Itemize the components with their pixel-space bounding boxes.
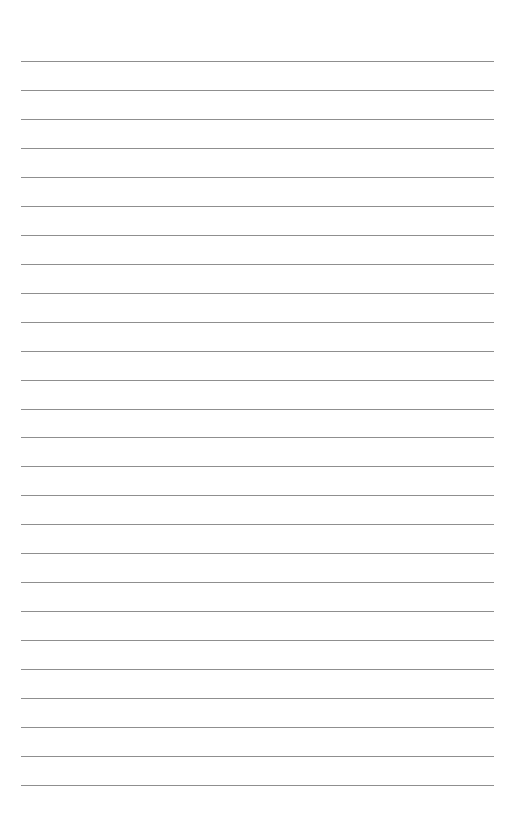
ruled-line <box>21 640 494 641</box>
ruled-line <box>21 322 494 323</box>
ruled-line <box>21 90 494 91</box>
ruled-line <box>21 611 494 612</box>
ruled-line <box>21 380 494 381</box>
ruled-page <box>0 0 517 821</box>
ruled-line <box>21 235 494 236</box>
ruled-line <box>21 669 494 670</box>
ruled-line <box>21 466 494 467</box>
ruled-line <box>21 756 494 757</box>
ruled-line <box>21 409 494 410</box>
ruled-line <box>21 264 494 265</box>
ruled-line <box>21 437 494 438</box>
ruled-line <box>21 698 494 699</box>
ruled-line <box>21 785 494 786</box>
ruled-line <box>21 727 494 728</box>
ruled-line <box>21 177 494 178</box>
ruled-line <box>21 61 494 62</box>
ruled-line <box>21 119 494 120</box>
ruled-line <box>21 524 494 525</box>
ruled-line <box>21 293 494 294</box>
ruled-line <box>21 206 494 207</box>
ruled-line <box>21 351 494 352</box>
ruled-line <box>21 582 494 583</box>
ruled-line <box>21 495 494 496</box>
ruled-line <box>21 553 494 554</box>
ruled-line <box>21 148 494 149</box>
